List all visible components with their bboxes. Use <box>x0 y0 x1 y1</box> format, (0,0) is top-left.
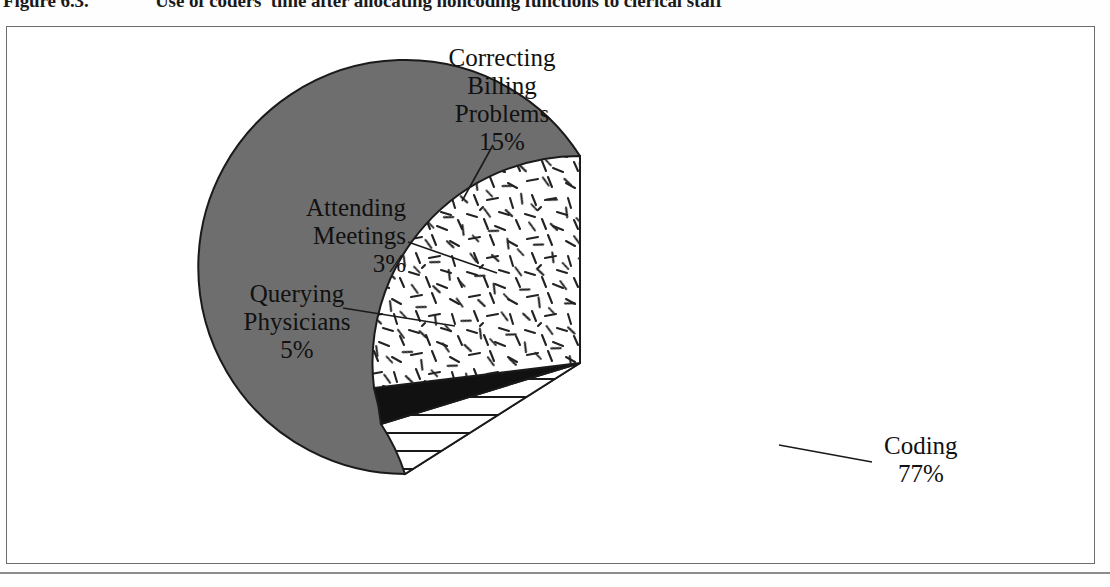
pie-label-value: 5% <box>186 336 408 364</box>
pie-label-coding: Coding 77% <box>884 432 1064 488</box>
pie-label-line-2: Meetings <box>196 222 406 250</box>
pie-label-line-3: Problems <box>382 100 622 128</box>
pie-label-querying-physicians: Querying Physicians 5% <box>186 280 408 364</box>
pie-label-line-1: Coding <box>884 432 1064 460</box>
pie-label-line-1: Querying <box>186 280 408 308</box>
pie-label-line-1: Correcting <box>382 44 622 72</box>
pie-label-correcting-billing-problems: Correcting Billing Problems 15% <box>382 44 622 156</box>
pie-label-line-2: Billing <box>382 72 622 100</box>
pie-label-attending-meetings: Attending Meetings 3% <box>196 194 406 278</box>
pie-label-value: 15% <box>382 128 622 156</box>
figure-page: Figure 6.3.Use of coders’ time after all… <box>0 0 1110 587</box>
leader-line-coding <box>779 445 872 462</box>
pie-label-line-2: Physicians <box>186 308 408 336</box>
pie-label-value: 77% <box>884 460 1064 488</box>
pie-label-value: 3% <box>196 250 406 278</box>
pie-label-line-1: Attending <box>196 194 406 222</box>
